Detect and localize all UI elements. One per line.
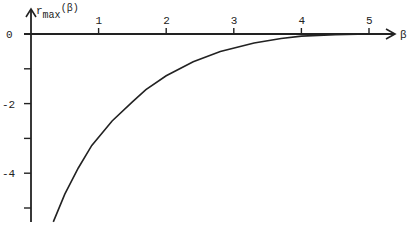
x-axis-label: β	[400, 29, 407, 41]
x-ticks: 12345	[96, 15, 373, 34]
x-tick-label: 2	[163, 15, 170, 27]
y-tick-label: -4	[2, 168, 16, 180]
chart-canvas: 12345 0-2-4 β rmax(β)	[0, 0, 411, 230]
y-axis-label: rmax(β)	[36, 3, 79, 21]
y-tick-label: -2	[2, 99, 15, 111]
y-ticks: 0-2-4	[2, 29, 31, 208]
x-tick-label: 3	[231, 15, 238, 27]
data-series-line	[53, 34, 369, 222]
axes	[24, 9, 395, 222]
y-tick-label: 0	[6, 29, 13, 41]
x-tick-label: 1	[96, 15, 103, 27]
x-tick-label: 4	[298, 15, 305, 27]
x-tick-label: 5	[366, 15, 373, 27]
